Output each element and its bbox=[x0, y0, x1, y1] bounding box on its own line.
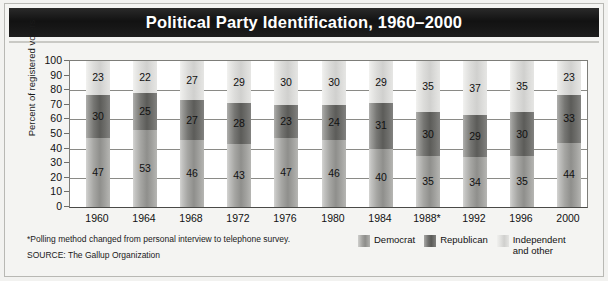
bar-value-label: 25 bbox=[139, 106, 151, 117]
bar-segment[interactable]: 30 bbox=[86, 95, 110, 139]
bar-value-label: 37 bbox=[469, 83, 481, 94]
y-tick-mark bbox=[64, 191, 69, 192]
bar-value-label: 24 bbox=[328, 117, 340, 128]
bar-segment[interactable]: 22 bbox=[133, 61, 157, 93]
legend-label: Republican bbox=[440, 234, 488, 245]
bar-value-label: 40 bbox=[375, 172, 387, 183]
bar-value-label: 27 bbox=[186, 115, 198, 126]
bar-segment[interactable]: 46 bbox=[322, 140, 346, 207]
bar-value-label: 23 bbox=[280, 116, 292, 127]
bar-segment[interactable]: 27 bbox=[180, 61, 204, 100]
y-tick-label: 90 bbox=[36, 70, 62, 80]
bar-value-label: 35 bbox=[516, 81, 528, 92]
bar-value-label: 35 bbox=[516, 176, 528, 187]
bar-segment[interactable]: 34 bbox=[463, 157, 487, 207]
plot-area: 2330472225532727462928433023473024462931… bbox=[69, 60, 588, 208]
bar-segment[interactable]: 29 bbox=[369, 61, 393, 103]
bar-value-label: 53 bbox=[139, 163, 151, 174]
y-tick-label: 10 bbox=[36, 186, 62, 196]
bar-stack[interactable]: 353035 bbox=[416, 61, 440, 207]
bar-value-label: 44 bbox=[563, 169, 575, 180]
bar-stack[interactable]: 272746 bbox=[180, 61, 204, 207]
bar-value-label: 28 bbox=[233, 118, 245, 129]
bar-segment[interactable]: 27 bbox=[180, 100, 204, 139]
x-tick-label: 2000 bbox=[536, 212, 600, 224]
bar-value-label: 23 bbox=[563, 72, 575, 83]
bar-segment[interactable]: 29 bbox=[463, 115, 487, 157]
bar-stack[interactable]: 372934 bbox=[463, 61, 487, 207]
bar-value-label: 35 bbox=[422, 81, 434, 92]
legend-swatch-icon bbox=[497, 235, 509, 247]
bar-stack[interactable]: 302446 bbox=[322, 61, 346, 207]
bar-value-label: 30 bbox=[328, 77, 340, 88]
bar-segment[interactable]: 30 bbox=[510, 112, 534, 156]
bar-segment[interactable]: 24 bbox=[322, 105, 346, 140]
footnote-text: *Polling method changed from personal in… bbox=[27, 234, 290, 244]
y-tick-mark bbox=[64, 118, 69, 119]
bar-segment[interactable]: 47 bbox=[86, 138, 110, 207]
legend-label: Independent and other bbox=[513, 234, 575, 256]
bar-value-label: 30 bbox=[92, 111, 104, 122]
bar-segment[interactable]: 40 bbox=[369, 149, 393, 207]
bar-value-label: 46 bbox=[328, 168, 340, 179]
bar-stack[interactable]: 292843 bbox=[227, 61, 251, 207]
bar-segment[interactable]: 31 bbox=[369, 103, 393, 148]
bar-stack[interactable]: 222553 bbox=[133, 61, 157, 207]
bar-segment[interactable]: 35 bbox=[510, 61, 534, 112]
bar-segment[interactable]: 30 bbox=[416, 112, 440, 156]
chart-legend: DemocratRepublicanIndependent and other bbox=[358, 234, 575, 256]
legend-swatch-icon bbox=[424, 235, 436, 247]
bar-segment[interactable]: 47 bbox=[274, 138, 298, 207]
bar-segment[interactable]: 43 bbox=[227, 144, 251, 207]
bar-stack[interactable]: 293140 bbox=[369, 61, 393, 207]
y-tick-mark bbox=[64, 60, 69, 61]
y-tick-label: 40 bbox=[36, 143, 62, 153]
y-tick-mark bbox=[64, 75, 69, 76]
bar-segment[interactable]: 23 bbox=[557, 61, 581, 95]
bar-segment[interactable]: 37 bbox=[463, 61, 487, 115]
bar-stack[interactable]: 233047 bbox=[86, 61, 110, 207]
bar-value-label: 31 bbox=[375, 120, 387, 131]
y-tick-mark bbox=[64, 206, 69, 207]
bar-segment[interactable]: 30 bbox=[322, 61, 346, 105]
bar-segment[interactable]: 28 bbox=[227, 103, 251, 144]
bar-value-label: 30 bbox=[422, 129, 434, 140]
y-tick-label: 60 bbox=[36, 113, 62, 123]
bar-value-label: 29 bbox=[375, 77, 387, 88]
bar-value-label: 43 bbox=[233, 170, 245, 181]
bar-segment[interactable]: 23 bbox=[86, 61, 110, 95]
bar-segment[interactable]: 35 bbox=[510, 156, 534, 207]
bar-segment[interactable]: 46 bbox=[180, 140, 204, 207]
y-tick-mark bbox=[64, 133, 69, 134]
bar-value-label: 35 bbox=[422, 176, 434, 187]
bar-value-label: 46 bbox=[186, 168, 198, 179]
bar-value-label: 29 bbox=[469, 131, 481, 142]
bar-segment[interactable]: 53 bbox=[133, 130, 157, 207]
bar-segment[interactable]: 29 bbox=[227, 61, 251, 103]
legend-swatch-icon bbox=[358, 235, 370, 247]
y-tick-label: 0 bbox=[36, 201, 62, 211]
bar-value-label: 29 bbox=[233, 77, 245, 88]
bar-segment[interactable]: 35 bbox=[416, 61, 440, 112]
bar-value-label: 47 bbox=[280, 167, 292, 178]
legend-item[interactable]: Democrat bbox=[358, 234, 415, 247]
bar-value-label: 34 bbox=[469, 177, 481, 188]
bar-value-label: 27 bbox=[186, 75, 198, 86]
bar-segment[interactable]: 23 bbox=[274, 105, 298, 139]
bar-segment[interactable]: 35 bbox=[416, 156, 440, 207]
y-tick-label: 30 bbox=[36, 157, 62, 167]
y-tick-mark bbox=[64, 148, 69, 149]
legend-item[interactable]: Independent and other bbox=[497, 234, 575, 256]
y-tick-mark bbox=[64, 104, 69, 105]
bar-value-label: 22 bbox=[139, 72, 151, 83]
bar-stack[interactable]: 233344 bbox=[557, 61, 581, 207]
bar-segment[interactable]: 44 bbox=[557, 143, 581, 207]
bar-segment[interactable]: 25 bbox=[133, 93, 157, 130]
y-tick-label: 70 bbox=[36, 99, 62, 109]
bar-segment[interactable]: 30 bbox=[274, 61, 298, 105]
bar-segment[interactable]: 33 bbox=[557, 95, 581, 143]
bar-stack[interactable]: 302347 bbox=[274, 61, 298, 207]
bar-stack[interactable]: 353035 bbox=[510, 61, 534, 207]
y-tick-label: 50 bbox=[36, 128, 62, 138]
legend-item[interactable]: Republican bbox=[424, 234, 488, 247]
